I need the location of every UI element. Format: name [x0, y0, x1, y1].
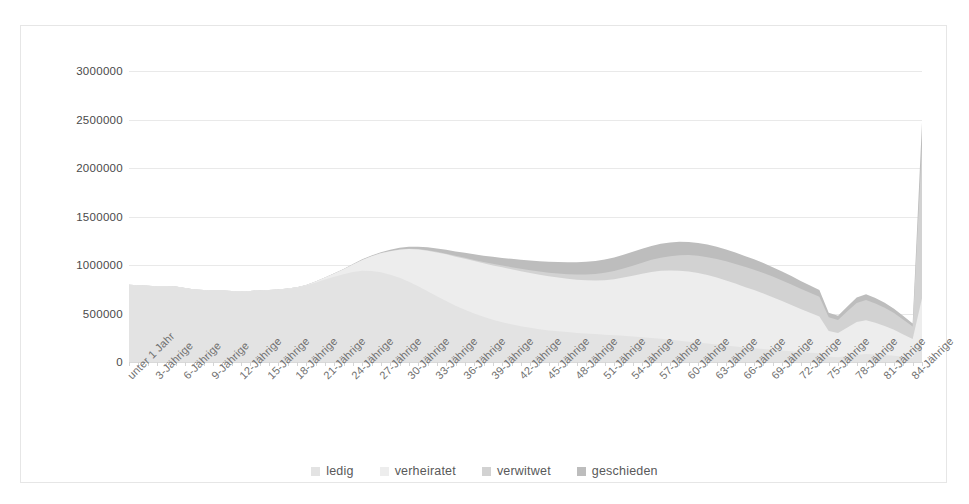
x-tick [297, 362, 298, 366]
legend-label: ledig [326, 464, 353, 478]
x-tick [773, 362, 774, 366]
x-tick [885, 362, 886, 366]
x-tick [857, 362, 858, 366]
y-tick-label: 500000 [83, 308, 123, 320]
y-tick-label: 0 [116, 356, 123, 368]
x-tick [661, 362, 662, 366]
y-tick-label: 1000000 [76, 259, 123, 271]
x-tick [213, 362, 214, 366]
y-axis: 0500000100000015000002000000250000030000… [41, 62, 123, 372]
x-tick [157, 362, 158, 366]
legend-swatch-icon [380, 467, 389, 476]
chart-container: 0500000100000015000002000000250000030000… [20, 25, 947, 483]
x-tick [745, 362, 746, 366]
x-tick [577, 362, 578, 366]
x-tick [605, 362, 606, 366]
stacked-area-series [129, 71, 922, 362]
legend-item-ledig[interactable]: ledig [311, 464, 353, 478]
x-tick [493, 362, 494, 366]
y-tick-label: 2000000 [76, 162, 123, 174]
x-tick [241, 362, 242, 366]
x-tick [829, 362, 830, 366]
legend-label: verheiratet [395, 464, 456, 478]
legend-label: verwitwet [497, 464, 551, 478]
plot-area [129, 71, 922, 362]
chart-legend: ledigverheiratetverwitwetgeschieden [21, 464, 948, 478]
x-tick [437, 362, 438, 366]
legend-label: geschieden [592, 464, 658, 478]
x-tick [549, 362, 550, 366]
x-tick [801, 362, 802, 366]
y-tick-label: 2500000 [76, 114, 123, 126]
y-tick-label: 3000000 [76, 65, 123, 77]
legend-item-geschieden[interactable]: geschieden [577, 464, 658, 478]
y-tick-label: 1500000 [76, 211, 123, 223]
x-tick [325, 362, 326, 366]
x-tick [913, 362, 914, 366]
x-tick [465, 362, 466, 366]
x-tick [381, 362, 382, 366]
x-tick [717, 362, 718, 366]
x-tick [633, 362, 634, 366]
x-tick [353, 362, 354, 366]
x-tick [269, 362, 270, 366]
legend-item-verwitwet[interactable]: verwitwet [482, 464, 551, 478]
legend-swatch-icon [482, 467, 491, 476]
legend-item-verheiratet[interactable]: verheiratet [380, 464, 456, 478]
legend-swatch-icon [311, 467, 320, 476]
x-tick [689, 362, 690, 366]
x-tick [409, 362, 410, 366]
x-tick [521, 362, 522, 366]
x-tick [185, 362, 186, 366]
legend-swatch-icon [577, 467, 586, 476]
x-tick [129, 362, 130, 366]
